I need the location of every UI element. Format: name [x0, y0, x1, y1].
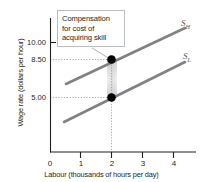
data-point-high-skill — [107, 55, 116, 64]
y-axis-title: Wage rate (dollars per hour) — [16, 8, 25, 158]
x-tick-label-3: 3 — [136, 159, 150, 168]
annotation-line-2: for cost of — [62, 24, 121, 34]
x-tick-label-0: 0 — [43, 159, 57, 168]
x-tick-label-2: 2 — [105, 159, 119, 168]
curve-label-high-skill: SH — [181, 18, 190, 30]
annotation-line-3: acquiring skill — [62, 33, 121, 43]
x-axis-title: Labour (thousands of hours per day) — [0, 170, 203, 179]
annotation-leader-line — [92, 48, 110, 59]
supply-curve-low-skill — [64, 62, 185, 122]
data-point-low-skill — [107, 93, 116, 102]
x-tick-label-1: 1 — [74, 159, 88, 168]
compensation-annotation-box: Compensation for cost of acquiring skill — [57, 10, 125, 47]
wage-rate-labour-chart: 10.00 8.50 5.00 0 1 2 3 4 Labour (thousa… — [0, 0, 203, 182]
y-tick-label-500: 5.00 — [31, 93, 46, 102]
curve-label-low-skill-sub: L — [188, 56, 191, 63]
annotation-line-1: Compensation — [62, 14, 121, 24]
curve-label-low-skill: SL — [183, 51, 191, 63]
curve-label-high-skill-sub: H — [186, 23, 190, 30]
x-tick-label-4: 4 — [167, 159, 181, 168]
y-tick-label-850: 8.50 — [31, 55, 46, 64]
y-tick-label-10: 10.00 — [27, 38, 46, 47]
